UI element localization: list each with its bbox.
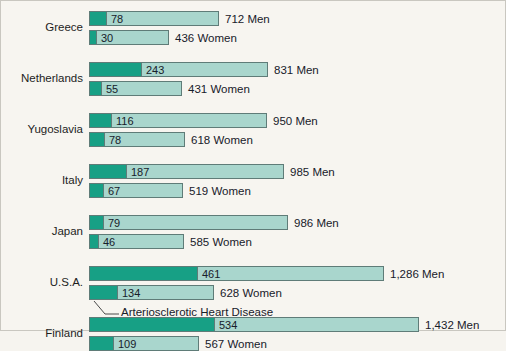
bar-segment-ahd — [90, 337, 114, 350]
bar-finland-women: 109 — [89, 336, 199, 351]
annotation-leader-line — [1, 1, 506, 332]
bar-total-label: 567 Women — [199, 338, 267, 350]
annotation-arteriosclerotic-heart-disease: Arteriosclerotic Heart Disease — [121, 306, 273, 318]
bar-value-ahd: 109 — [114, 338, 136, 350]
